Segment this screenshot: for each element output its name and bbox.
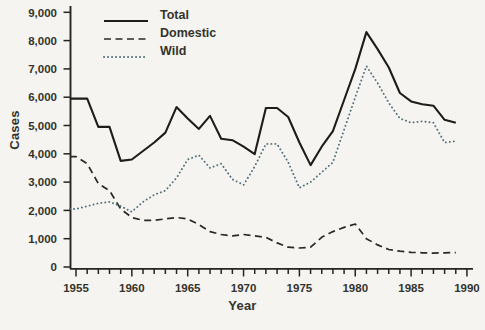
x-tick-label-1975: 1975 (287, 282, 313, 294)
y-axis-title: Cases (7, 99, 23, 161)
x-tick-label-1985: 1985 (398, 282, 424, 294)
legend-label-wild: Wild (160, 44, 186, 58)
y-tick-label-5000: 5,000 (28, 120, 57, 132)
y-tick-label-7000: 7,000 (28, 63, 57, 75)
y-tick-label-2000: 2,000 (28, 205, 57, 217)
legend-item-total: Total (103, 6, 216, 24)
x-tick-label-1980: 1980 (342, 282, 368, 294)
legend-item-domestic: Domestic (103, 24, 216, 42)
y-tick-label-3000: 3,000 (28, 176, 57, 188)
total-line-sample-icon (103, 11, 149, 19)
legend-label-domestic: Domestic (160, 26, 216, 40)
x-tick-label-1990: 1990 (454, 282, 480, 294)
y-tick-label-1000: 1,000 (28, 233, 57, 245)
y-tick-label-8000: 8,000 (28, 35, 57, 47)
wild-line-sample-icon (103, 47, 149, 55)
x-tick-label-1955: 1955 (63, 282, 89, 294)
y-tick-label-0: 0 (51, 261, 57, 273)
line-chart-plot-area: 01,0002,0003,0004,0005,0006,0007,0008,00… (0, 0, 485, 330)
domestic-line-sample-icon (103, 29, 149, 37)
legend-swatch-svg (103, 35, 149, 43)
y-tick-label-4000: 4,000 (28, 148, 57, 160)
x-axis-title: Year (0, 298, 485, 313)
x-tick-label-1965: 1965 (175, 282, 201, 294)
legend-swatch-svg (103, 53, 149, 61)
legend-swatch-svg (103, 17, 149, 25)
legend-label-total: Total (160, 8, 189, 22)
y-tick-label-9000: 9,000 (28, 7, 57, 19)
series-line-domestic (70, 157, 456, 254)
rabies-cases-figure: 01,0002,0003,0004,0005,0006,0007,0008,00… (0, 0, 485, 330)
legend: Total Domestic Wild (103, 6, 216, 60)
legend-item-wild: Wild (103, 42, 216, 60)
y-tick-label-6000: 6,000 (28, 91, 57, 103)
x-tick-label-1960: 1960 (119, 282, 145, 294)
x-tick-label-1970: 1970 (231, 282, 257, 294)
